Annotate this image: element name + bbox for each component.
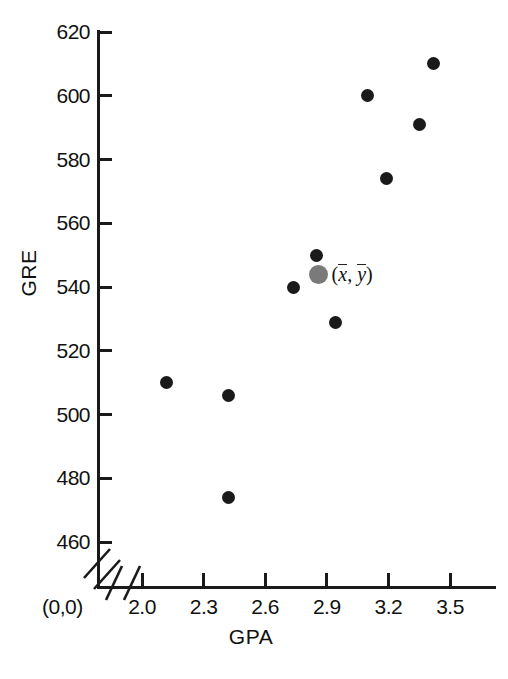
data-point	[329, 316, 342, 329]
y-axis-tick	[100, 349, 112, 352]
y-axis-tick-label-text: 620	[30, 21, 90, 42]
data-point	[380, 172, 393, 185]
y-axis-tick	[100, 477, 112, 480]
centroid-label: (x, y)	[332, 264, 373, 284]
centroid-label-x-bar: x	[338, 264, 347, 284]
scatter-plot-figure: 4604805005205405605806006202.02.32.62.93…	[0, 0, 508, 679]
y-axis-tick-label-text: 520	[30, 340, 90, 361]
y-axis-tick-label: 580	[22, 149, 90, 170]
y-axis-tick-label-text: 580	[30, 149, 90, 170]
data-point	[222, 389, 235, 402]
y-axis-tick	[100, 222, 112, 225]
x-axis-title: GPA	[196, 626, 306, 648]
data-point	[310, 249, 323, 262]
data-point	[413, 118, 426, 131]
data-point	[287, 281, 300, 294]
centroid-label-y-bar: y	[357, 264, 366, 284]
x-axis-tick	[202, 573, 205, 586]
y-axis-tick-label: 460	[22, 531, 90, 552]
y-axis-tick	[100, 541, 112, 544]
plot-area: 4604805005205405605806006202.02.32.62.93…	[0, 0, 508, 679]
data-point	[222, 491, 235, 504]
origin-label: (0,0)	[42, 596, 83, 618]
data-point	[427, 57, 440, 70]
y-axis-tick-label-text: 480	[30, 467, 90, 488]
y-axis-tick-label-text: 600	[30, 85, 90, 106]
x-axis-tick	[449, 573, 452, 586]
data-point	[160, 376, 173, 389]
y-axis-tick-label: 600	[22, 85, 90, 106]
y-axis-tick-label: 620	[22, 21, 90, 42]
y-axis-title: GRE	[18, 228, 40, 318]
centroid-label-comma: ,	[347, 263, 357, 285]
x-axis-tick-label: 2.3	[169, 596, 239, 618]
x-axis-tick-label: 2.6	[230, 596, 300, 618]
x-axis-tick	[325, 573, 328, 586]
y-axis-tick	[100, 158, 112, 161]
y-axis-tick-label: 500	[22, 404, 90, 425]
x-axis-tick-label: 2.0	[107, 596, 177, 618]
x-axis-tick	[387, 573, 390, 586]
y-axis-tick	[100, 94, 112, 97]
x-axis-tick-label: 3.5	[415, 596, 485, 618]
x-axis-tick	[141, 573, 144, 586]
x-axis-tick-label: 2.9	[292, 596, 362, 618]
data-point	[361, 89, 374, 102]
y-axis-tick-label-text: 500	[30, 404, 90, 425]
y-axis-tick	[100, 286, 112, 289]
centroid-label-close-paren: )	[366, 263, 373, 285]
y-axis-tick	[100, 413, 112, 416]
x-axis-tick	[264, 573, 267, 586]
x-axis-tick-label: 3.2	[353, 596, 423, 618]
y-axis-tick-label: 480	[22, 467, 90, 488]
y-axis-tick	[100, 31, 112, 34]
y-axis-tick-label-text: 460	[30, 531, 90, 552]
centroid-point	[309, 265, 328, 284]
y-axis-tick-label: 520	[22, 340, 90, 361]
